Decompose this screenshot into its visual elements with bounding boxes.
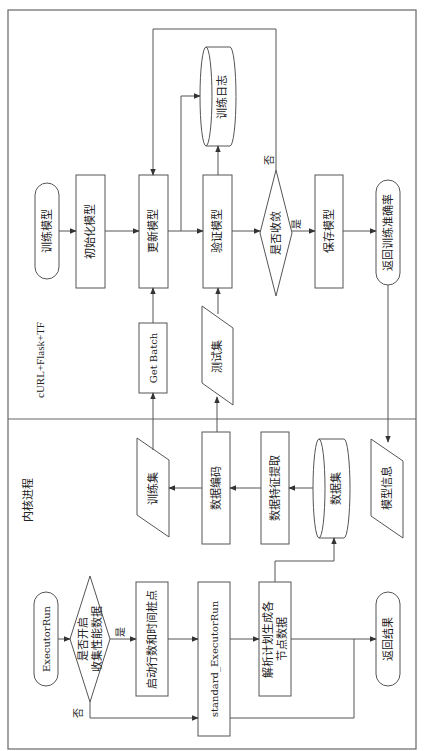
node-collect-perf-label-line1: 是否开启 xyxy=(77,617,90,661)
flowchart-canvas: cURL+Flask+TF 内核进程 训练模型 初始化模型 更新模型 验证模型 … xyxy=(0,0,425,751)
edge-decision-no-to-standard xyxy=(90,702,198,718)
node-validate-model-label: 验证模型 xyxy=(210,209,224,253)
node-feature-extract-label: 数据特征提取 xyxy=(268,455,282,521)
node-update-model-label: 更新模型 xyxy=(146,209,160,253)
node-data-encode-label: 数据编码 xyxy=(209,466,223,510)
node-save-model-label: 保存模型 xyxy=(322,209,336,253)
node-dataset-label: 数据集 xyxy=(329,472,343,505)
node-standard-executor-run-label: standard_ExecutorRun xyxy=(209,600,221,717)
edge-update-to-log xyxy=(181,96,200,231)
node-executor-run-label: ExecutorRun xyxy=(41,605,52,672)
node-parse-plan-label-line2: 节点数据 xyxy=(275,617,289,661)
edge-parse-to-dataset xyxy=(275,538,334,582)
node-get-batch-label: Get Batch xyxy=(148,332,159,383)
node-return-result-label: 返回结果 xyxy=(382,617,395,661)
node-collect-perf-label-line2: 收集性能数据 xyxy=(90,606,104,672)
node-train-model-label: 训练模型 xyxy=(40,209,54,253)
node-start-stubs-label: 启动行数和时间桩点 xyxy=(145,590,159,689)
node-train-set-label: 训练集 xyxy=(146,472,160,505)
edge-label-collect-no: 否 xyxy=(73,708,84,718)
edge-label-converge-yes: 是 xyxy=(291,219,302,229)
node-collect-perf-decision xyxy=(70,576,110,702)
node-parse-plan-label-line1: 解析计划生成各 xyxy=(261,601,275,678)
node-init-model-label: 初始化模型 xyxy=(83,204,97,259)
node-return-accuracy-label: 返回训练准确率 xyxy=(381,194,395,271)
node-test-set-label: 测试集 xyxy=(210,340,224,373)
edge-standard-to-return xyxy=(230,639,354,718)
node-train-log-label: 训练日志 xyxy=(215,75,229,119)
node-converge-label: 是否收敛 xyxy=(269,211,283,255)
node-model-info-label: 模型信息 xyxy=(380,466,394,510)
lane-label-curl-flask-tf: cURL+Flask+TF xyxy=(34,322,46,398)
lane-label-kernel-process: 内核进程 xyxy=(21,478,34,522)
edge-label-converge-no: 否 xyxy=(264,155,275,165)
edge-label-collect-yes: 是 xyxy=(115,627,126,637)
